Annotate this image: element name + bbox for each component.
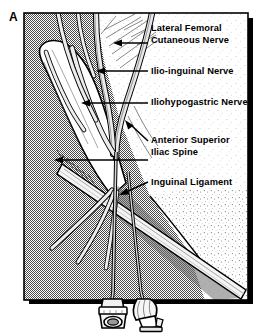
label-line-1: Ilio-inguinal Nerve [151, 66, 234, 78]
label-line-1: Lateral Femoral [151, 23, 229, 35]
anatomical-illustration [0, 0, 265, 333]
label-line-1: Iliohypogastric Nerve [151, 97, 248, 109]
label-ilio-inguinal-nerve: Ilio-inguinal Nerve [151, 66, 234, 78]
label-anterior-superior-iliac-spine: Anterior Superior Iliac Spine [151, 135, 230, 158]
label-line-1: Inguinal Ligament [151, 177, 232, 189]
label-line-1: Anterior Superior [151, 135, 230, 147]
label-line-2: Cutaneous Nerve [151, 35, 229, 47]
label-iliohypogastric-nerve: Iliohypogastric Nerve [151, 97, 248, 109]
label-inguinal-ligament: Inguinal Ligament [151, 177, 232, 189]
label-line-2: Iliac Spine [151, 147, 230, 159]
figure-panel: A [0, 0, 265, 333]
label-lateral-femoral-cutaneous-nerve: Lateral Femoral Cutaneous Nerve [151, 23, 229, 46]
